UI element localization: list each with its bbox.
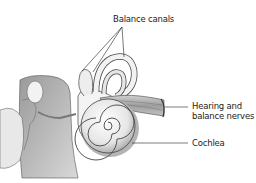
- nerves-label-line1: Hearing and: [192, 101, 254, 111]
- cochlea-label: Cochlea: [192, 138, 225, 148]
- nerves-label-line2: balance nerves: [192, 111, 254, 121]
- balance-canals: [79, 57, 135, 97]
- inner-ear-illustration: [0, 0, 256, 183]
- nerves-label: Hearing and balance nerves: [192, 101, 254, 121]
- temporal-bone-region: [0, 76, 78, 179]
- inner-ear-diagram: Balance canals Hearing and balance nerve…: [0, 0, 256, 183]
- leader-line-canal-3: [122, 27, 124, 57]
- balance-canals-label: Balance canals: [113, 14, 174, 24]
- leader-line-canal-2: [93, 27, 122, 72]
